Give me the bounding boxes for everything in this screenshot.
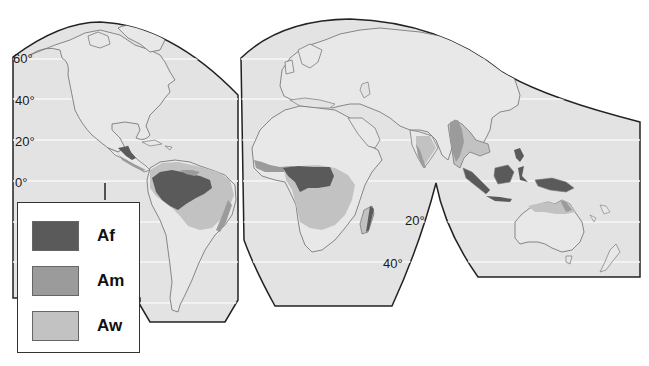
latitude-label-60: 60° [13, 51, 33, 66]
latitude-label-0: 0° [15, 175, 27, 190]
legend-swatch-af [32, 221, 79, 251]
legend-item-am: Am [32, 266, 124, 296]
legend-label-am: Am [97, 271, 124, 291]
legend-label-aw: Aw [97, 316, 122, 336]
latitude-label-40: 40° [15, 93, 35, 108]
legend-swatch-am [32, 266, 79, 296]
legend-swatch-aw [32, 311, 79, 341]
legend-item-aw: Aw [32, 311, 122, 341]
legend-label-af: Af [97, 226, 115, 246]
latitude-label-40-south: 40° [383, 256, 403, 271]
climate-legend: Af Am Aw [17, 202, 140, 353]
legend-item-af: Af [32, 221, 115, 251]
latitude-label-20: 20° [15, 134, 35, 149]
latitude-label-20-south: 20° [405, 213, 425, 228]
eastern-hemisphere-lobe [240, 19, 645, 306]
